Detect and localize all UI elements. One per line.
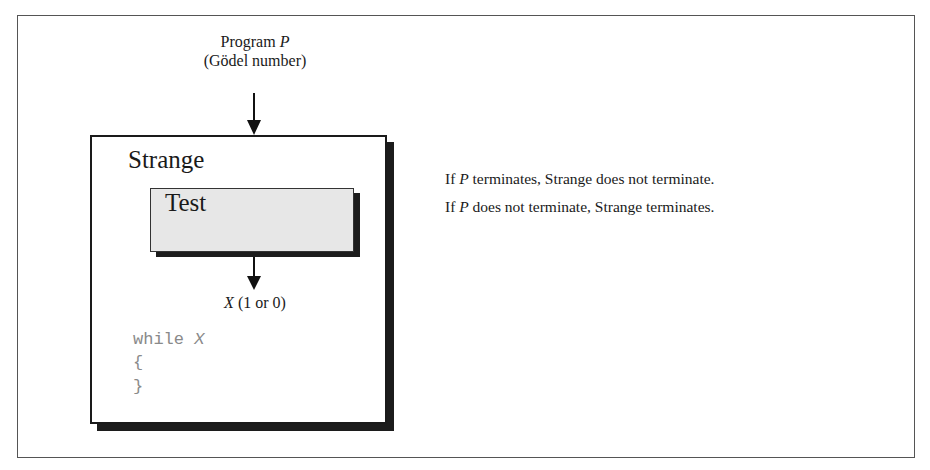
explanation-prefix: If: [445, 198, 459, 215]
explanation-variable: P: [459, 198, 468, 215]
output-arrow-icon: [0, 0, 930, 470]
code-open-brace: {: [133, 353, 143, 372]
output-variable: X: [224, 294, 234, 311]
code-close-brace: }: [133, 377, 143, 396]
explanation-line-1: If P terminates, Strange does not termin…: [445, 170, 714, 188]
explanation-variable: P: [459, 170, 468, 187]
while-variable: X: [194, 330, 204, 349]
code-while-line: while X: [133, 330, 204, 349]
output-label: X (1 or 0): [200, 294, 310, 312]
explanation-prefix: If: [445, 170, 459, 187]
explanation-text: terminates, Strange does not terminate.: [469, 170, 715, 187]
explanation-line-2: If P does not terminate, Strange termina…: [445, 198, 714, 216]
while-keyword: while: [133, 330, 194, 349]
output-range: (1 or 0): [234, 294, 286, 311]
explanation-text: does not terminate, Strange terminates.: [469, 198, 715, 215]
